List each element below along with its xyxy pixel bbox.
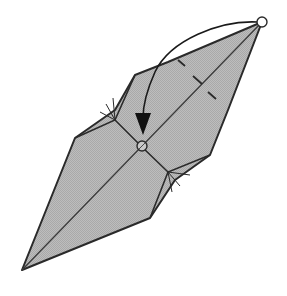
origami-diagram: Fold the top point down to the marked ce… [0,0,287,296]
diagram-canvas [0,0,287,296]
start-point-circle-icon [257,17,267,27]
